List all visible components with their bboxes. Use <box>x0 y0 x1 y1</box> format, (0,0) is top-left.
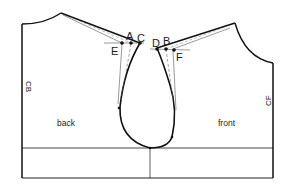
armhole-notch-back <box>118 107 121 110</box>
front-shoulder-alt-line-2 <box>166 27 225 49</box>
pattern-diagram: A C E D B F back front CB CF <box>0 0 289 192</box>
back-shoulder-alt-line-2 <box>70 17 131 43</box>
label-f: F <box>176 51 183 63</box>
label-a: A <box>126 30 134 42</box>
back-neckline <box>22 13 61 24</box>
armhole-notch-front <box>171 136 174 139</box>
label-b: B <box>163 35 170 47</box>
front-neckline <box>235 23 273 63</box>
center-back-label: CB <box>24 81 33 92</box>
front-shoulder-alt-line <box>173 28 230 49</box>
label-d: D <box>152 37 160 49</box>
label-c: C <box>137 32 145 44</box>
back-panel-label: back <box>57 118 76 128</box>
point-e-marker <box>120 41 124 45</box>
armhole-bottom-point <box>149 147 152 150</box>
point-b-marker <box>164 47 168 51</box>
front-panel-label: front <box>218 118 236 128</box>
label-e: E <box>111 45 118 57</box>
center-front-label: CF <box>264 95 273 106</box>
back-shoulder-alt-line <box>63 15 122 43</box>
